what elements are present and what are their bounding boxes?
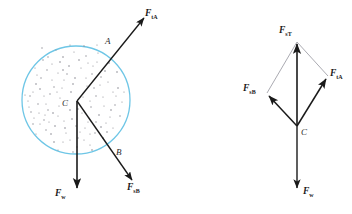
svg-text:FsT: FsT [278,25,292,37]
right-origin-label-C: C [301,127,308,137]
physics-force-diagram-figure: C A B FtA FsB Fw [0,0,352,214]
left-diagram-group: C A B FtA FsB Fw [22,8,158,200]
right-force-FsB-arrow [269,96,297,126]
left-force-label-Fw: Fw [54,188,66,200]
right-Fw-subscript: w [309,192,314,198]
svg-text:Fw: Fw [302,186,314,198]
svg-text:FsB: FsB [242,83,256,95]
right-FtA-subscript: tA [336,74,343,80]
right-FsT-subscript: sT [285,31,291,37]
svg-text:FsB: FsB [126,182,140,194]
right-FsB-subscript: sB [249,89,255,95]
left-force-label-FtA: FtA [144,8,158,20]
right-force-label-FsB: FsB [242,83,256,95]
construction-line-right [297,42,328,76]
svg-text:Fw: Fw [54,188,66,200]
left-point-label-B: B [116,147,122,157]
right-force-label-Fw: Fw [302,186,314,198]
svg-text:FtA: FtA [144,8,158,20]
left-force-label-FsB: FsB [126,182,140,194]
left-FtA-subscript: tA [151,14,158,20]
svg-text:FtA: FtA [329,68,343,80]
right-force-FtA-arrow [297,79,326,126]
right-force-label-FtA: FtA [329,68,343,80]
construction-line-left [267,42,297,93]
left-point-label-A: A [104,36,111,46]
left-Fw-subscript: w [61,194,66,200]
left-FsB-subscript: sB [133,188,139,194]
ball-circle [22,46,130,154]
right-force-label-FsT: FsT [278,25,292,37]
right-diagram-group: C FsT FtA FsB Fw [242,25,343,198]
figure-canvas: C A B FtA FsB Fw [0,0,352,214]
left-center-label-C: C [62,98,69,108]
